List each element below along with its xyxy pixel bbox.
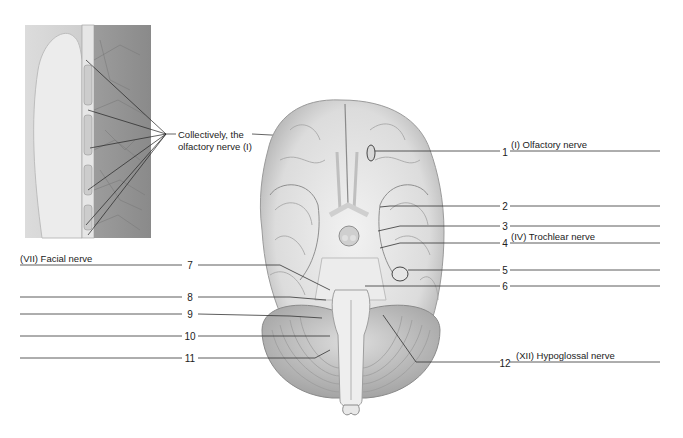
brain-illustration: [0, 0, 683, 438]
olfactory-bulb-marker: [367, 145, 375, 161]
label-number-9: 9: [183, 309, 197, 320]
answer-1-olfactory: (I) Olfactory nerve: [511, 139, 587, 150]
label-number-4: 4: [498, 238, 512, 249]
label-number-11: 11: [183, 353, 197, 364]
cranial-nerves-diagram: Collectively, the olfactory nerve (I) 1 …: [0, 0, 683, 438]
label-number-12: 12: [498, 358, 512, 369]
label-number-2: 2: [498, 201, 512, 212]
inset-callout-line2: olfactory nerve (I): [178, 141, 252, 152]
label-number-1: 1: [498, 147, 512, 158]
answer-4-trochlear: (IV) Trochlear nerve: [511, 231, 595, 242]
label-number-10: 10: [183, 331, 197, 342]
inset-callout-line1: Collectively, the: [178, 129, 244, 140]
answer-7-facial: (VII) Facial nerve: [20, 253, 92, 264]
label-number-3: 3: [498, 221, 512, 232]
trigeminal-marker: [392, 267, 408, 281]
label-number-8: 8: [183, 292, 197, 303]
label-number-5: 5: [498, 265, 512, 276]
answer-12-hypoglossal: (XII) Hypoglossal nerve: [516, 350, 615, 361]
label-number-7: 7: [183, 260, 197, 271]
label-number-6: 6: [498, 281, 512, 292]
spinal-cord-cross-section: [343, 405, 360, 415]
